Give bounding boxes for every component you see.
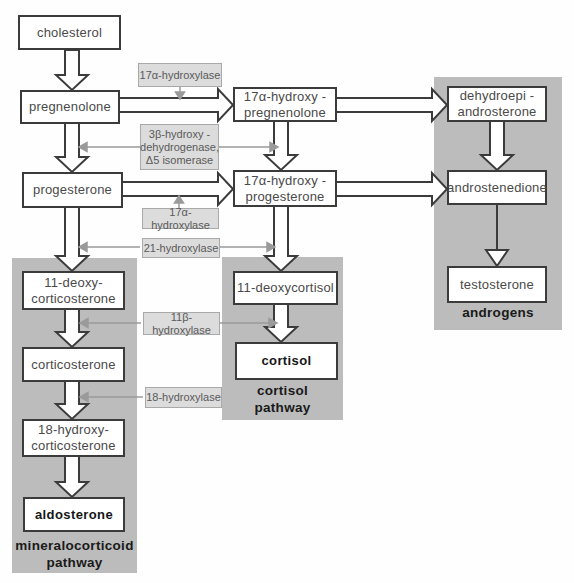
pathway-label-line2: pathway (222, 399, 343, 416)
enzyme-label-line3: Δ5 isomerase (146, 154, 213, 167)
node-progesterone: progesterone (22, 172, 123, 208)
enzyme-label: 17α-hydroxylase (143, 206, 218, 232)
node-label-line1: 18-hydroxy- (38, 422, 109, 438)
arrow-doc-corticosterone (56, 308, 88, 347)
node-label: androstenedione (447, 180, 547, 196)
node-label: cholesterol (37, 25, 102, 41)
node-label-line2: androsterone (457, 104, 536, 120)
enzyme-label: 11β-hydroxylase (144, 311, 219, 337)
arrow-3b-dehydrogenase-right (218, 143, 278, 152)
enzyme-17a-hydroxylase-mid: 17α-hydroxylase (142, 208, 219, 229)
arrow-21-hydroxylase-right (218, 243, 275, 252)
node-17a-hydroxy-progesterone: 17α-hydroxy - progesterone (233, 170, 337, 207)
node-label: progesterone (33, 182, 112, 198)
arrow-21-hydroxylase-left (79, 243, 140, 252)
node-label-line1: 17α-hydroxy - (244, 173, 326, 189)
arrow-ohprogesterone-androstenedione (335, 173, 447, 205)
node-corticosterone: corticosterone (22, 347, 125, 382)
node-label: corticosterone (31, 357, 115, 373)
arrow-pregnenolone-ohpregnenolone (118, 89, 233, 121)
node-11-deoxycortisol: 11-deoxycortisol (233, 271, 338, 305)
enzyme-label-line1: 3β-hydroxy - (149, 128, 210, 141)
enzyme-17a-hydroxylase-top: 17α-hydroxylase (138, 63, 222, 87)
node-dehydroepiandrosterone: dehydroepi - androsterone (447, 86, 547, 122)
enzyme-label: 17α-hydroxylase (140, 69, 221, 82)
androgens-pathway-label: androgens (434, 304, 562, 321)
node-aldosterone: aldosterone (23, 497, 125, 532)
enzyme-label: 18-hydroxylase (146, 391, 221, 404)
arrow-progesterone-doc (56, 206, 88, 271)
node-testosterone: testosterone (447, 266, 547, 303)
node-label-line1: dehydroepi - (460, 88, 535, 104)
arrow-11b-hydroxylase-left (80, 319, 141, 328)
arrow-ohprogesterone-deoxycortisol (265, 205, 297, 271)
node-label-line2: progesterone (245, 189, 324, 205)
enzyme-18-hydroxylase: 18-hydroxylase (145, 387, 222, 408)
steroid-pathway-diagram: cholesterol pregnenolone progesterone 17… (0, 0, 574, 583)
node-cholesterol: cholesterol (18, 15, 121, 50)
node-label-line2: pregnenolone (244, 105, 326, 121)
node-label: testosterone (460, 277, 534, 293)
enzyme-label-line2: dehydrogenase, (140, 141, 219, 154)
node-label-line1: 17α-hydroxy - (244, 89, 326, 105)
pathway-label-text: androgens (462, 305, 534, 320)
arrow-dhea-androstenedione (481, 120, 513, 170)
enzyme-3b-hydroxy-dehydrogenase: 3β-hydroxy - dehydrogenase, Δ5 isomerase (140, 124, 219, 170)
mineralocorticoid-pathway-label: mineralocorticoid pathway (12, 537, 137, 571)
arrow-androstenedione-testosterone (486, 201, 508, 266)
arrow-ohcorticosterone-aldosterone (56, 455, 88, 497)
node-label: cortisol (261, 353, 311, 369)
node-label-line2: corticosterone (31, 291, 115, 307)
node-pregnenolone: pregnenolone (20, 90, 120, 124)
arrow-ohpregnenolone-dhea (335, 89, 447, 121)
node-label-line2: corticosterone (31, 438, 115, 454)
node-androstenedione: androstenedione (447, 170, 547, 205)
enzyme-11b-hydroxylase: 11β-hydroxylase (143, 312, 220, 335)
arrow-3b-dehydrogenase-left (79, 143, 140, 152)
cortisol-pathway-label: cortisol pathway (222, 382, 343, 416)
node-18-hydroxy-corticosterone: 18-hydroxy- corticosterone (22, 419, 125, 457)
enzyme-21-hydroxylase: 21-hydroxylase (142, 238, 220, 258)
enzyme-label: 21-hydroxylase (144, 242, 219, 255)
node-label: 11-deoxycortisol (237, 280, 334, 296)
node-11-deoxy-corticosterone: 11-deoxy- corticosterone (22, 271, 125, 310)
pathway-label-line1: mineralocorticoid (12, 537, 137, 554)
node-label: aldosterone (35, 507, 113, 523)
pathway-label-line2: pathway (12, 554, 137, 571)
node-17a-hydroxy-pregnenolone: 17α-hydroxy - pregnenolone (233, 87, 337, 122)
arrow-cholesterol-pregnenolone (56, 50, 88, 90)
arrow-18-hydroxylase-left (80, 393, 143, 402)
pathway-label-line1: cortisol (222, 382, 343, 399)
node-cortisol: cortisol (235, 342, 338, 380)
node-label: pregnenolone (29, 99, 111, 115)
node-label-line1: 11-deoxy- (44, 275, 103, 291)
